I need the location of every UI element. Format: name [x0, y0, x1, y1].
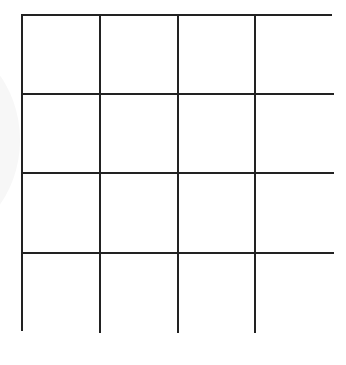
grid-cell-r3-c2	[101, 174, 179, 254]
grid-cell-r4-c1	[23, 254, 101, 333]
grid-cell-r2-c3	[179, 95, 256, 174]
grid-cell-r1-c4	[256, 16, 334, 95]
grid-cell-r4-c3	[179, 254, 256, 333]
grid-cell-r2-c2	[101, 95, 179, 174]
grid-cell-r1-c2	[101, 16, 179, 95]
grid-cell-r4-c4	[256, 254, 334, 333]
grid-cell-r3-c1	[23, 174, 101, 254]
grid-cell-r1-c1	[23, 16, 101, 95]
grid-cell-r1-c3	[179, 16, 256, 95]
background-arc-decoration	[0, 40, 20, 240]
grid-cell-r4-c2	[101, 254, 179, 333]
grid-cell-r3-c3	[179, 174, 256, 254]
grid-cell-r2-c1	[23, 95, 101, 174]
grid-cell-r3-c4	[256, 174, 334, 254]
grid-cell-r2-c4	[256, 95, 334, 174]
grid-4x4	[21, 14, 332, 331]
